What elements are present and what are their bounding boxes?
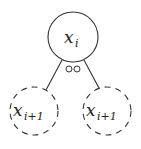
- node-child-right-label: x: [86, 100, 96, 120]
- node-child-left-label: x: [13, 100, 23, 120]
- node-root-subscript: i: [75, 37, 79, 50]
- node-root: x i: [48, 12, 98, 62]
- node-child-left: x i+1: [10, 87, 58, 135]
- node-root-label: x: [64, 27, 74, 47]
- node-child-right-subscript: i+1: [97, 110, 117, 123]
- node-child-right: x i+1: [83, 87, 131, 135]
- edge-right: [84, 60, 100, 90]
- edge-left: [46, 60, 62, 90]
- tree-diagram: x i x i+1 x i+1: [0, 0, 141, 149]
- node-child-left-subscript: i+1: [24, 110, 44, 123]
- edge-marker-oo: [66, 66, 80, 72]
